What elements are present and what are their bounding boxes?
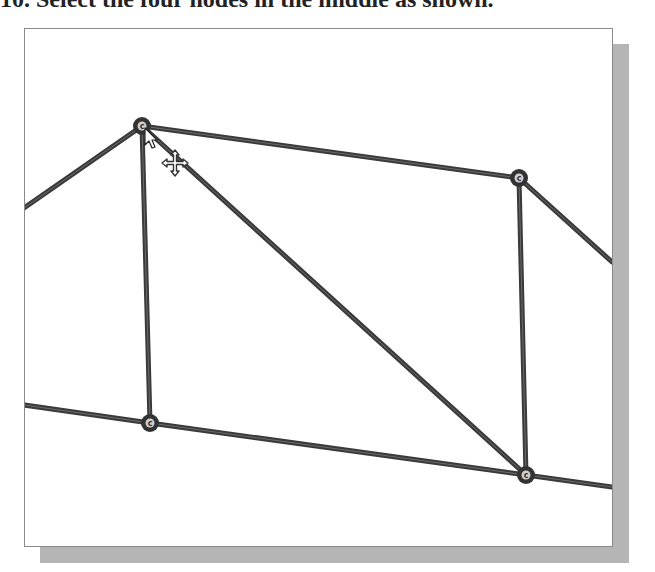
member-top-chord-highlight	[142, 126, 519, 178]
member-bottom-chord-left-highlight	[24, 405, 150, 423]
member-right-diagonal-highlight	[519, 178, 612, 262]
member-left-vertical-highlight	[142, 126, 150, 423]
node-glyph: c	[148, 419, 153, 428]
member-bottom-chord-middle-highlight	[150, 423, 526, 475]
node-bottom-left[interactable]: c	[141, 414, 159, 432]
member-left-diagonal-highlight	[24, 126, 142, 208]
node-bottom-right[interactable]: c	[517, 466, 535, 484]
node-glyph: c	[517, 174, 522, 183]
move-cross-icon	[162, 150, 188, 176]
member-bottom-chord-right-highlight	[526, 475, 612, 487]
node-glyph: c	[140, 122, 145, 131]
truss-canvas[interactable]: cccc	[0, 0, 655, 572]
member-middle-diagonal-highlight	[142, 126, 526, 475]
mouse-cursor	[145, 128, 188, 176]
node-glyph: c	[524, 471, 529, 480]
node-top-right[interactable]: c	[510, 169, 528, 187]
